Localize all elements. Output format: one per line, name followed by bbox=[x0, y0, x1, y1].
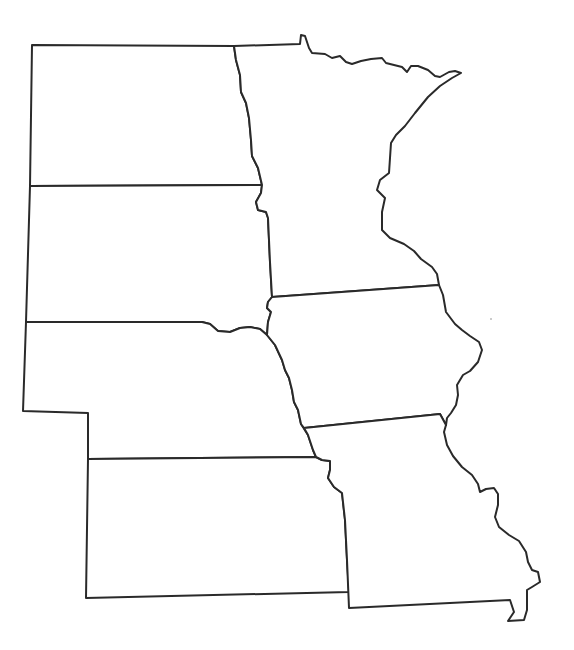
stray-dot bbox=[490, 318, 492, 320]
outline-map: North Dakota South Dakota Nebraska Kansa… bbox=[0, 0, 574, 650]
map-canvas bbox=[0, 0, 574, 650]
state-kansas[interactable] bbox=[86, 457, 349, 598]
state-iowa[interactable] bbox=[267, 285, 482, 428]
state-south-dakota[interactable] bbox=[26, 185, 272, 335]
state-north-dakota[interactable] bbox=[30, 45, 262, 186]
